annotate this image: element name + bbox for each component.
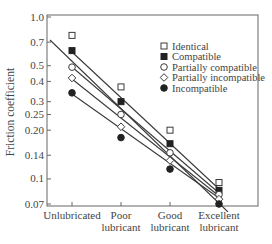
- x-category-label: lubricant: [150, 221, 189, 233]
- y-tick-label: 0.3: [30, 95, 44, 107]
- x-axis: UnlubricatedPoorlubricantGoodlubricantEx…: [43, 202, 239, 233]
- fit-line-incompatible: [72, 94, 219, 198]
- legend-marker-incompatible: [161, 85, 168, 92]
- data-point-partially-compatible: [118, 111, 125, 118]
- y-tick-label: 0.5: [30, 59, 44, 71]
- y-axis-label: Friction coefficient: [4, 67, 16, 156]
- legend-marker-partially-compatible: [161, 64, 168, 71]
- data-point-identical: [118, 84, 124, 90]
- legend-label: Identical: [172, 41, 209, 52]
- y-tick-label: 1.0: [30, 11, 44, 23]
- data-point-compatible: [118, 99, 124, 105]
- data-point-incompatible: [216, 201, 223, 208]
- data-point-compatible: [167, 141, 173, 147]
- y-tick-label: 0.7: [30, 36, 44, 48]
- legend-label: Partially compatible: [172, 62, 257, 73]
- y-tick-label: 0.20: [25, 124, 45, 136]
- legend: IdenticalCompatiblePartially compatibleP…: [160, 41, 265, 94]
- data-point-identical: [167, 127, 173, 133]
- data-point-compatible: [69, 48, 75, 54]
- y-tick-label: 0.14: [25, 149, 45, 161]
- legend-label: Partially incompatible: [172, 72, 265, 83]
- x-category-label: Unlubricated: [43, 209, 101, 221]
- legend-marker-compatible: [161, 54, 167, 60]
- data-point-identical: [69, 32, 75, 38]
- y-tick-label: 0.1: [30, 172, 44, 184]
- x-category-label: Excellent: [198, 209, 240, 221]
- data-point-incompatible: [118, 134, 125, 141]
- plot-border: [47, 15, 258, 206]
- y-tick-label: 0.25: [25, 108, 45, 120]
- x-category-label: Poor: [111, 209, 132, 221]
- data-point-incompatible: [69, 90, 76, 97]
- y-tick-label: 0.4: [30, 75, 44, 87]
- legend-marker-partially-incompatible: [160, 74, 168, 82]
- y-tick-label: 0.07: [25, 198, 45, 210]
- legend-label: Incompatible: [172, 83, 228, 94]
- x-category-label: Good: [158, 209, 183, 221]
- data-point-identical: [216, 180, 222, 186]
- data-point-partially-incompatible: [117, 123, 125, 131]
- x-category-label: lubricant: [101, 221, 140, 233]
- friction-coefficient-chart: 1.00.70.50.40.30.250.200.140.10.07 Unlub…: [0, 0, 272, 244]
- plot-frame: [47, 15, 258, 206]
- x-category-label: lubricant: [199, 221, 238, 233]
- fit-line-partially-incompatible: [72, 79, 219, 196]
- data-point-incompatible: [167, 166, 174, 173]
- legend-marker-identical: [161, 43, 167, 49]
- data-point-partially-compatible: [69, 64, 76, 71]
- data-point-partially-compatible: [167, 149, 174, 156]
- legend-label: Compatible: [172, 51, 221, 62]
